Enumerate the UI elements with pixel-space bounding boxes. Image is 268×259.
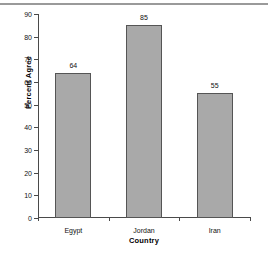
x-axis-tick-mark [109, 217, 110, 221]
y-axis-tick-mark [34, 173, 38, 174]
y-axis-tick-label: 40 [24, 124, 32, 131]
y-axis-tick-label: 90 [24, 11, 32, 18]
bar [55, 73, 91, 218]
y-axis-tick-label: 80 [24, 33, 32, 40]
bar [197, 93, 233, 218]
y-axis-title: Percent Agree [2, 78, 16, 87]
y-axis-tick-mark [34, 150, 38, 151]
y-axis-tick-mark [34, 82, 38, 83]
x-axis-tick-mark [38, 217, 39, 221]
y-axis-tick-label: 30 [24, 147, 32, 154]
x-axis-category-label: Jordan [133, 227, 154, 235]
y-axis-tick-mark [34, 195, 38, 196]
bar-value-label: 64 [69, 62, 77, 70]
y-axis-tick-label: 10 [24, 192, 32, 199]
top-divider-rule [0, 3, 268, 5]
bar-chart: Percent Agree 0102030405060708090 648555… [0, 0, 268, 259]
x-axis-tick-mark [250, 217, 251, 221]
y-axis-tick-mark [34, 59, 38, 60]
plot-area: 0102030405060708090 648555 EgyptJordanIr… [38, 14, 250, 218]
y-axis-tick-mark [34, 127, 38, 128]
y-axis-line [38, 14, 39, 218]
y-axis-tick-label: 0 [28, 215, 32, 222]
y-axis-tick-mark [34, 105, 38, 106]
y-axis-tick-label: 60 [24, 79, 32, 86]
x-axis-category-label: Egypt [64, 227, 82, 235]
y-axis-tick-label: 20 [24, 169, 32, 176]
x-axis-title: Country [38, 236, 250, 245]
y-axis-tick-label: 70 [24, 56, 32, 63]
x-axis-tick-mark [179, 217, 180, 221]
y-axis-tick-mark [34, 14, 38, 15]
x-axis-category-label: Iran [209, 227, 221, 235]
bar-value-label: 55 [211, 82, 219, 90]
bar-value-label: 85 [140, 14, 148, 22]
y-axis-tick-label: 50 [24, 101, 32, 108]
bar [126, 25, 162, 218]
y-axis-tick-mark [34, 37, 38, 38]
